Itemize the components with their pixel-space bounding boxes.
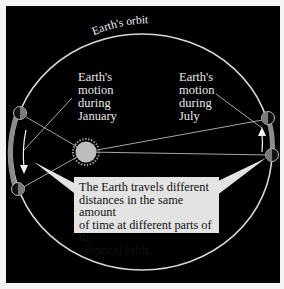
earth-july-start-icon [266,149,279,162]
january-arrow-icon [20,130,28,174]
july-arrow-icon [258,127,266,152]
earth-january-end-icon [12,183,25,196]
callout-pointer-left [34,162,78,196]
earth-july-end-icon [262,112,275,125]
callout-line: of time at different parts of its [79,219,215,244]
callout-pointer-right [216,158,266,196]
earth-january-start-icon [14,107,27,120]
july-label: Earth's motion during July [179,71,214,123]
january-label: Earth's motion during January [78,71,117,123]
july-label-line: July [179,110,214,123]
callout-box: The Earth travels different distances in… [74,177,219,233]
sun-icon [73,139,99,165]
callout-line: The Earth travels different [79,181,215,194]
january-label-line: January [78,110,117,123]
callout-line: distances in the same amount [79,194,215,219]
callout-line: elliptical orbit. [79,244,215,257]
